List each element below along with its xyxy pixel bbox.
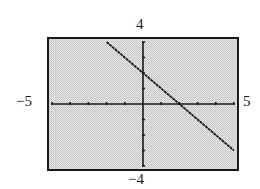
y-max-label: 4 xyxy=(136,17,144,32)
x-min-label: −5 xyxy=(16,94,32,109)
plot-area xyxy=(49,39,237,169)
graph-window xyxy=(47,37,239,171)
x-max-label: 5 xyxy=(243,94,251,109)
y-min-label: −4 xyxy=(128,172,144,187)
